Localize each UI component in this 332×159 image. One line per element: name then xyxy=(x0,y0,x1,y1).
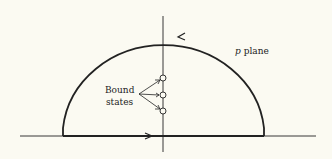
bound-states-label-line2: states xyxy=(106,97,134,107)
bound-state-pole-2 xyxy=(160,92,166,98)
plane-text: plane xyxy=(241,46,269,56)
bound-state-arrows xyxy=(139,80,160,109)
bound-states-label-line1: Bound xyxy=(105,85,135,95)
contour-direction-arrow-top xyxy=(178,33,185,40)
contour-semicircle xyxy=(63,45,264,136)
plane-label: p plane xyxy=(235,46,269,56)
bound-state-pole-3 xyxy=(160,108,166,114)
bound-state-pole-1 xyxy=(160,75,166,81)
contour-diagram: Bound states p plane xyxy=(0,0,332,159)
